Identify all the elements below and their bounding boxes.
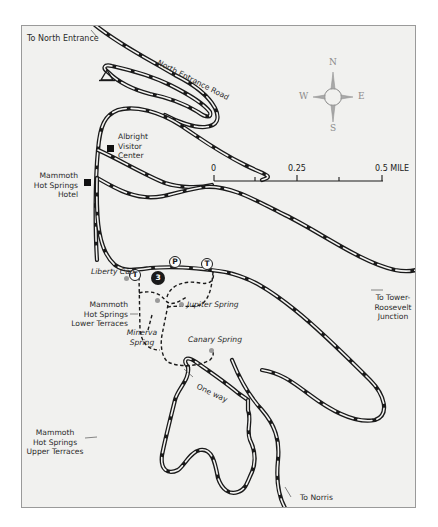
liberty-cap-spring-icon	[124, 276, 129, 281]
trail-network[interactable]	[139, 272, 213, 366]
scale-tick-05: 0.5 MILE	[375, 164, 409, 173]
jupiter-spring-icon	[179, 302, 184, 307]
lower-terraces-label: Mammoth Hot Springs Lower Terraces	[60, 300, 128, 329]
canary-spring-icon	[209, 348, 214, 353]
canary-spring-label: Canary Spring	[188, 335, 242, 345]
norris-road[interactable]	[232, 360, 285, 508]
point-of-interest-3[interactable]: 3	[151, 271, 165, 285]
mammoth-hotel-label: Mammoth Hot Springs Hotel	[28, 171, 78, 200]
jupiter-spring-label: Jupiter Spring	[187, 300, 239, 310]
scale-tick-025: 0.25	[288, 164, 306, 173]
scale-tick-0: 0	[211, 164, 216, 173]
trailhead-marker-2[interactable]: T	[201, 258, 213, 270]
hotel-building-icon	[84, 179, 91, 186]
to-norris-label: To Norris	[300, 493, 333, 503]
compass-s-label: S	[330, 123, 336, 133]
grand-loop-road[interactable]	[97, 178, 384, 421]
compass-rose-icon	[313, 72, 353, 122]
parking-marker[interactable]: P	[169, 256, 181, 268]
minerva-spring-label: Minerva Spring	[124, 328, 160, 347]
leader-lines	[85, 30, 383, 497]
compass-w-label: W	[299, 91, 308, 101]
visitor-center-building-icon	[107, 145, 114, 152]
compass-e-label: E	[358, 91, 365, 101]
liberty-cap-label: Liberty Cap	[91, 267, 135, 277]
compass-n-label: N	[329, 57, 337, 67]
to-tower-roosevelt-label: To Tower- Roosevelt Junction	[369, 293, 417, 322]
minerva-spring-icon	[155, 298, 160, 303]
to-north-entrance-label: To North Entrance	[27, 34, 99, 44]
upper-terraces-label: Mammoth Hot Springs Upper Terraces	[24, 428, 86, 457]
albright-visitor-center-label: Albright Visitor Center	[118, 132, 148, 161]
scale-bar	[214, 175, 383, 181]
